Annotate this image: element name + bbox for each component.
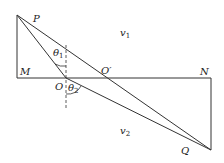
label-v1: v1 [120, 27, 130, 40]
label-m: M [19, 66, 31, 77]
label-theta1: θ1 [53, 47, 64, 60]
straight-path-p-q [17, 15, 211, 150]
label-n: N [199, 66, 210, 77]
ray-o-q [66, 78, 211, 150]
refraction-diagram: P M O O′ N Q θ1 θ2 v1 v2 [0, 0, 224, 163]
label-q: Q [181, 145, 189, 156]
label-v2: v2 [120, 125, 130, 138]
label-o-prime: O′ [101, 65, 112, 76]
label-o: O [55, 81, 63, 92]
label-p: P [32, 13, 40, 24]
